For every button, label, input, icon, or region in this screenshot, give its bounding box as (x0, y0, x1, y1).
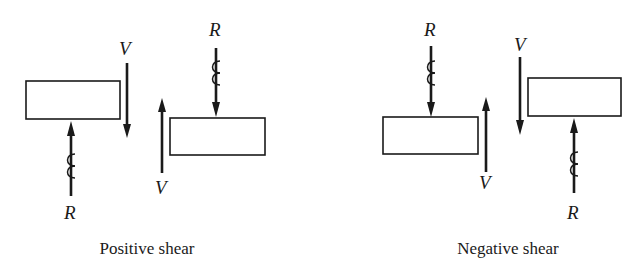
shear-sign-convention-diagram: V R V R Positive shear (0, 0, 641, 271)
reaction-label-r-top: R (208, 19, 221, 40)
right-beam-segment (528, 78, 621, 116)
shear-label-v-top: V (119, 38, 133, 59)
right-beam-segment (170, 118, 265, 155)
negative-shear-panel: R V V R Negative shear (383, 19, 621, 258)
shear-arrow-down (516, 57, 524, 135)
shear-label-v-bottom: V (155, 177, 169, 198)
reaction-label-r-bottom: R (566, 202, 579, 223)
left-beam-segment (26, 81, 120, 119)
reaction-arrow-up (570, 118, 578, 193)
reaction-arrow-up (67, 121, 75, 196)
reaction-arrow-down (427, 46, 435, 117)
shear-label-v-bottom: V (479, 172, 493, 193)
shear-arrow-up (158, 98, 166, 173)
shear-label-v-top: V (514, 34, 528, 55)
shear-arrow-down (123, 63, 131, 138)
positive-shear-panel: V R V R Positive shear (26, 19, 265, 258)
reaction-arrow-down (212, 48, 220, 117)
caption-positive-shear: Positive shear (100, 239, 195, 258)
shear-arrow-up (482, 97, 490, 172)
reaction-label-r-top: R (423, 19, 436, 40)
caption-negative-shear: Negative shear (457, 239, 559, 258)
reaction-label-r-bottom: R (63, 202, 76, 223)
left-beam-segment (383, 117, 478, 154)
